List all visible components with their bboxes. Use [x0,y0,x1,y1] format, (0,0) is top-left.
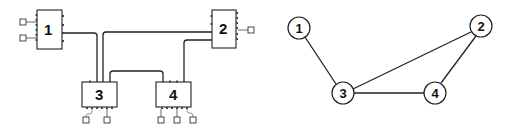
edge-1-3 [305,37,336,84]
graph-node-3-label: 3 [339,86,346,101]
wire-3-4 [110,71,163,82]
terminal-4a [158,117,164,123]
terminal-3b [104,117,110,123]
graph-diagram: 1 2 3 4 [288,15,492,104]
graph-node-4-label: 4 [431,86,439,101]
terminal-2a [248,27,254,33]
module-1-label: 1 [44,21,52,38]
terminal-1a [20,19,26,25]
module-2-label: 2 [219,20,227,37]
graph-node-1-label: 1 [295,21,302,36]
graph-node-2: 2 [470,15,492,37]
graph-node-4: 4 [424,82,446,104]
wire-2-4 [184,40,212,82]
edge-2-3 [353,32,471,89]
module-2: 2 [211,10,255,48]
module-4-label: 4 [169,86,178,103]
module-3-label: 3 [95,86,103,103]
graph-node-3: 3 [332,82,354,104]
module-4: 4 [156,81,196,124]
terminal-1b [20,35,26,41]
diagram-canvas: 1 2 3 [0,0,507,131]
wire-1-3 [62,33,97,82]
terminal-4b [174,117,180,123]
wiring-diagram [62,32,212,82]
terminal-3a [83,117,89,123]
edge-2-4 [441,36,476,83]
terminal-4c [190,117,196,123]
graph-node-1: 1 [288,17,310,39]
graph-node-2-label: 2 [477,19,484,34]
module-3: 3 [82,81,117,124]
module-1: 1 [20,10,64,49]
